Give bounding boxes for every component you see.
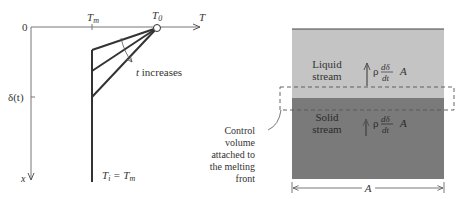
cv-label-1: Control [224,125,255,136]
delta-label: δ(t) [8,91,24,104]
solid-flux-num: dδ [381,114,391,124]
liquid-flux-den: dt [382,73,390,83]
solid-label-1: Solid [315,111,339,123]
t0-point [154,25,161,32]
t-axis-label: T [199,11,206,23]
solid-label-2: stream [312,123,342,135]
time-increases-label: t increases [136,66,182,78]
liquid-flux-rho: ρ [373,65,379,77]
origin-label: 0 [22,21,28,33]
cv-label-4: the melting [210,161,255,172]
initial-temperature-label: Ti = Tm [102,169,135,183]
control-volume-diagram: Liquid stream Solid stream ρ dδ dt A ρ d… [210,29,454,194]
liquid-flux-area: A [399,65,407,77]
solid-flux-area: A [399,117,407,129]
melting-diagram: 0 T x Tm T0 δ(t) t increases Ti = Tm Liq… [0,0,467,199]
solid-flux-rho: ρ [373,117,379,129]
cv-label-5: front [236,173,256,184]
solid-flux-den: dt [382,125,390,135]
tm-label: Tm [87,11,99,25]
cv-label-3: attached to [211,149,255,160]
liquid-label-2: stream [312,70,342,82]
cv-label-2: volume [225,137,256,148]
control-volume-leader [268,110,281,130]
liquid-label-1: Liquid [312,58,342,70]
x-axis-label: x [20,173,26,184]
width-label: A [364,182,372,194]
temperature-profile-plot: 0 T x Tm T0 δ(t) t increases Ti = Tm [8,9,206,184]
liquid-flux-num: dδ [381,62,391,72]
t0-label: T0 [152,9,162,23]
